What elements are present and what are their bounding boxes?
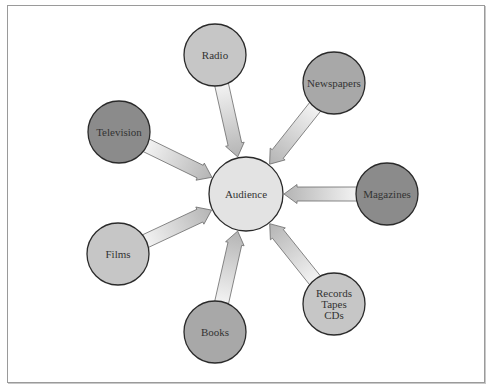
node-label: Radio <box>202 49 229 61</box>
node-magazines: Magazines <box>356 163 418 225</box>
node-label: CDs <box>324 309 344 321</box>
arrow-newspapers-to-audience <box>270 101 322 164</box>
node-films: Films <box>87 223 149 285</box>
arrow-records-to-audience <box>270 224 322 286</box>
node-records: RecordsTapesCDs <box>303 273 365 335</box>
nodes-layer: RadioNewspapersTelevisionMagazinesFilmsR… <box>87 24 418 363</box>
center-node-audience: Audience <box>209 157 283 231</box>
node-label: Television <box>96 126 142 138</box>
arrow-films-to-audience <box>141 207 211 248</box>
node-books: Books <box>184 301 246 363</box>
node-newspapers: Newspapers <box>303 52 365 114</box>
node-label: Books <box>201 326 229 338</box>
node-label: Audience <box>225 188 267 200</box>
node-radio: Radio <box>184 24 246 86</box>
node-label: Films <box>105 248 130 260</box>
node-television: Television <box>88 101 150 163</box>
arrow-books-to-audience <box>215 231 245 305</box>
node-label: Newspapers <box>307 77 361 89</box>
arrow-television-to-audience <box>142 138 212 180</box>
arrow-magazines-to-audience <box>284 185 358 204</box>
arrow-radio-to-audience <box>215 82 245 157</box>
node-label: Magazines <box>363 188 411 200</box>
media-audience-diagram: RadioNewspapersTelevisionMagazinesFilmsR… <box>0 0 492 390</box>
